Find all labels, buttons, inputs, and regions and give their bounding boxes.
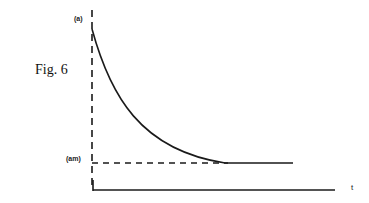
decay-chart (0, 0, 369, 203)
decay-curve (92, 29, 293, 163)
